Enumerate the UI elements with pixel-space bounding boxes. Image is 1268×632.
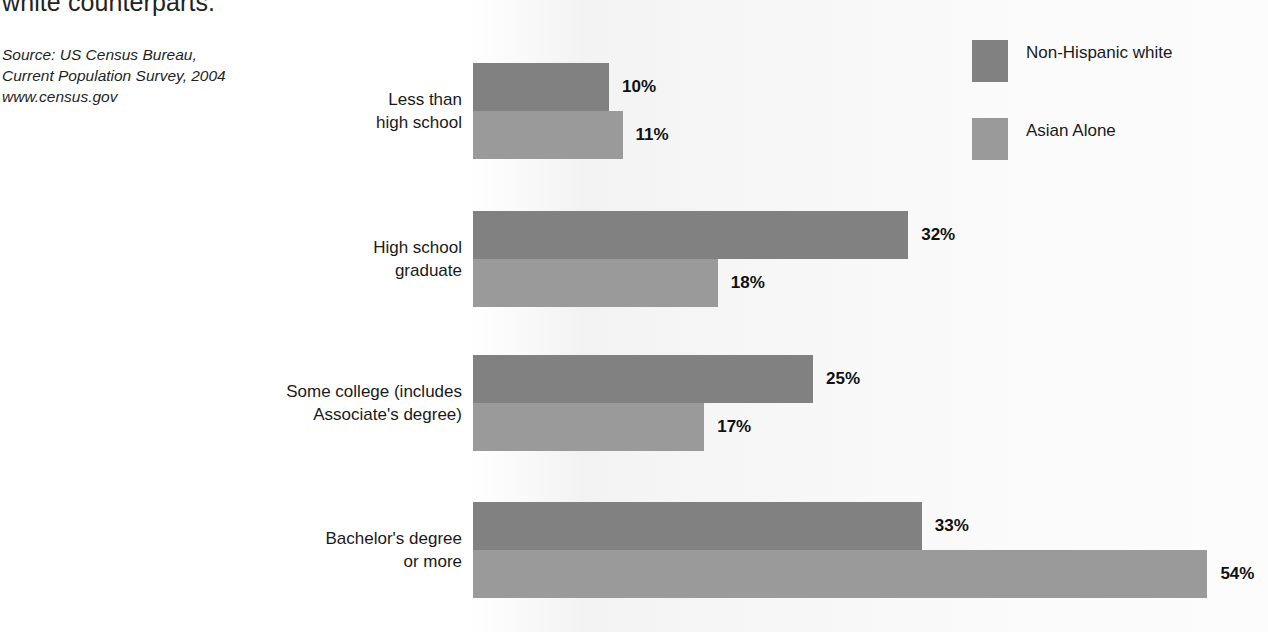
- chart-canvas: white counterparts. Source: US Census Bu…: [0, 0, 1268, 632]
- bar-non-hispanic-white: 10%: [473, 63, 609, 111]
- bar-rect: 32%: [473, 211, 908, 259]
- category-label-line: high school: [62, 111, 462, 134]
- bar-rect: 17%: [473, 403, 704, 451]
- category-label-line: Bachelor's degree: [62, 527, 462, 550]
- bar-rect: 54%: [473, 550, 1207, 598]
- bar-value-label: 32%: [921, 225, 955, 245]
- bar-asian-alone: 17%: [473, 403, 704, 451]
- bar-value-label: 17%: [717, 417, 751, 437]
- category-label: High schoolgraduate: [62, 236, 462, 282]
- category-label-line: or more: [62, 550, 462, 573]
- bar-value-label: 18%: [731, 273, 765, 293]
- bar-value-label: 10%: [622, 77, 656, 97]
- category-label: Bachelor's degreeor more: [62, 527, 462, 573]
- bar-rect: 10%: [473, 63, 609, 111]
- bar-asian-alone: 18%: [473, 259, 718, 307]
- bar-rect: 25%: [473, 355, 813, 403]
- bar-rect: 33%: [473, 502, 922, 550]
- category-label-line: Associate's degree): [62, 403, 462, 426]
- bar-non-hispanic-white: 32%: [473, 211, 908, 259]
- category-label-line: Less than: [62, 88, 462, 111]
- category-label-line: graduate: [62, 259, 462, 282]
- category-label-line: High school: [62, 236, 462, 259]
- bar-value-label: 33%: [935, 516, 969, 536]
- category-label: Some college (includesAssociate's degree…: [62, 380, 462, 426]
- bar-rect: 11%: [473, 111, 623, 159]
- bar-asian-alone: 54%: [473, 550, 1207, 598]
- bar-value-label: 25%: [826, 369, 860, 389]
- bar-value-label: 54%: [1220, 564, 1254, 584]
- bar-asian-alone: 11%: [473, 111, 623, 159]
- bar-value-label: 11%: [636, 125, 669, 145]
- bar-chart-plot: Less thanhigh school10%11%High schoolgra…: [0, 0, 1268, 632]
- bar-rect: 18%: [473, 259, 718, 307]
- category-label: Less thanhigh school: [62, 88, 462, 134]
- bar-non-hispanic-white: 33%: [473, 502, 922, 550]
- category-label-line: Some college (includes: [62, 380, 462, 403]
- bar-non-hispanic-white: 25%: [473, 355, 813, 403]
